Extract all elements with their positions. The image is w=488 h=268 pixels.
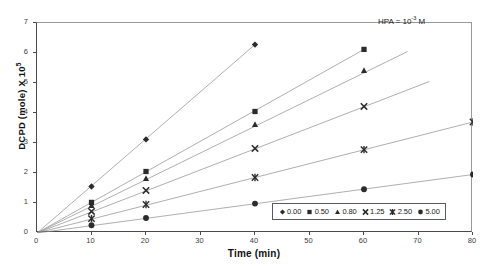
legend-item-0.00[interactable]: 0.00 bbox=[279, 207, 302, 216]
annotation-text-after: M bbox=[416, 17, 425, 26]
x-axis-tick-label: 20 bbox=[133, 237, 157, 245]
legend-label: 5.00 bbox=[426, 208, 440, 216]
legend-label: 2.50 bbox=[398, 208, 412, 216]
data-point-square bbox=[361, 47, 366, 52]
data-point-circle bbox=[89, 222, 95, 228]
x-axis-tick-mark bbox=[309, 232, 310, 235]
x-axis-tick-mark bbox=[200, 232, 201, 235]
data-point-square bbox=[252, 109, 257, 114]
chart-annotation: HPA = 10-3 M bbox=[378, 15, 425, 26]
chart-figure: 01234567 DCPD (mole) X 105 0102030405060… bbox=[0, 0, 488, 268]
legend-item-1.25[interactable]: 1.25 bbox=[362, 207, 385, 216]
data-point-square bbox=[308, 210, 312, 214]
y-axis-tick-label: 1 bbox=[6, 198, 28, 206]
y-axis-tick-label: 7 bbox=[6, 18, 28, 26]
data-point-circle bbox=[418, 210, 423, 215]
data-point-circle bbox=[470, 172, 473, 178]
data-point-asterisk bbox=[470, 118, 473, 125]
circle-icon bbox=[417, 207, 424, 216]
legend-label: 0.50 bbox=[315, 208, 329, 216]
legend-label: 1.25 bbox=[370, 208, 384, 216]
data-point-triangle bbox=[361, 67, 367, 73]
plot-canvas bbox=[37, 23, 473, 233]
triangle-icon bbox=[334, 207, 341, 216]
legend-item-2.50[interactable]: 2.50 bbox=[389, 207, 412, 216]
x-axis-tick-label: 0 bbox=[24, 237, 48, 245]
asterisk-icon bbox=[389, 207, 396, 216]
x-axis-tick-label: 10 bbox=[79, 237, 103, 245]
x-axis-tick-label: 60 bbox=[351, 237, 375, 245]
x-axis-tick-mark bbox=[363, 232, 364, 235]
x-axis-tick-mark bbox=[472, 232, 473, 235]
x-axis-tick-label: 40 bbox=[242, 237, 266, 245]
chart-legend: 0.000.500.801.252.505.00 bbox=[272, 203, 446, 220]
y-axis-tick-label: 0 bbox=[6, 228, 28, 236]
data-point-triangle bbox=[252, 121, 258, 127]
x-axis-tick-label: 70 bbox=[406, 237, 430, 245]
legend-label: 0.00 bbox=[287, 208, 301, 216]
legend-item-0.80[interactable]: 0.80 bbox=[334, 207, 357, 216]
data-point-asterisk bbox=[252, 174, 258, 181]
square-icon bbox=[306, 207, 313, 216]
annotation-text-before: HPA = 10 bbox=[378, 17, 411, 26]
x-axis-tick-mark bbox=[91, 232, 92, 235]
data-point-square bbox=[143, 169, 148, 174]
data-point-triangle bbox=[335, 209, 340, 214]
data-point-circle bbox=[252, 201, 258, 207]
x-axis-tick-mark bbox=[254, 232, 255, 235]
x-axis-tick-mark bbox=[145, 232, 146, 235]
x-axis-tick-mark bbox=[418, 232, 419, 235]
data-point-circle bbox=[143, 215, 149, 221]
data-point-circle bbox=[361, 186, 367, 192]
x-axis-tick-label: 50 bbox=[297, 237, 321, 245]
x-axis-title: Time (min) bbox=[36, 248, 472, 259]
plot-area bbox=[36, 22, 472, 232]
y-axis-title: DCPD (mole) X 105 bbox=[15, 41, 27, 171]
x-axis-tick-label: 80 bbox=[460, 237, 484, 245]
x-axis-tick-label: 30 bbox=[188, 237, 212, 245]
legend-item-0.50[interactable]: 0.50 bbox=[306, 207, 329, 216]
cross-icon bbox=[362, 207, 369, 216]
data-point-triangle bbox=[143, 175, 149, 181]
data-point-cross bbox=[361, 103, 367, 109]
y-axis-title-exponent: 5 bbox=[15, 62, 22, 66]
data-point-asterisk bbox=[361, 146, 367, 153]
data-point-cross bbox=[252, 145, 258, 151]
data-point-cross bbox=[363, 209, 368, 214]
legend-item-5.00[interactable]: 5.00 bbox=[417, 207, 440, 216]
y-axis-title-text: DCPD (mole) X 10 bbox=[16, 66, 27, 149]
data-point-diamond bbox=[279, 209, 284, 214]
data-point-asterisk bbox=[390, 209, 395, 215]
series-0.00 bbox=[37, 41, 258, 233]
legend-label: 0.80 bbox=[342, 208, 356, 216]
diamond-icon bbox=[279, 207, 286, 216]
